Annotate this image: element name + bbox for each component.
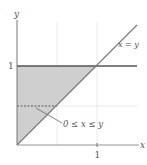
region-diagram: y x 1 1 x = y 0 ≤ x ≤ y [0, 0, 147, 165]
region-label: 0 ≤ x ≤ y [63, 119, 103, 129]
x-axis-label: x [140, 140, 145, 150]
y-tick-label: 1 [8, 61, 14, 71]
x-tick-label: 1 [95, 150, 101, 160]
y-axis-label: y [13, 9, 20, 19]
curve-label-x-equals-y: x = y [118, 40, 139, 49]
